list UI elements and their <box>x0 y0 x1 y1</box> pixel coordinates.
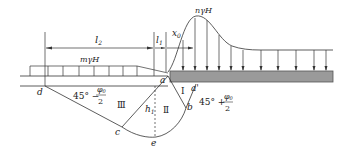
point-b: b <box>187 102 193 112</box>
footing <box>170 71 333 82</box>
arrowhead-icon <box>188 47 193 50</box>
zone-I: Ⅰ <box>181 86 185 96</box>
zone-II: Ⅱ <box>163 105 169 115</box>
point-a-prime: a' <box>191 83 199 93</box>
zone-III: Ⅲ <box>117 100 126 110</box>
point-d: d <box>37 87 43 97</box>
load-arrows <box>183 18 326 70</box>
label-peak-load: nγH <box>195 6 213 15</box>
arrowhead-icon <box>161 47 165 49</box>
label-l1: l1 <box>156 35 163 46</box>
arrowhead-icon <box>46 47 52 50</box>
angle-active-den: 2 <box>225 104 230 113</box>
load-arrowheads <box>182 66 328 71</box>
point-e: e <box>151 138 156 148</box>
label-l2: l2 <box>95 34 102 46</box>
angle-active-num: φ0 <box>224 92 234 101</box>
label-x0: x0 <box>172 28 181 39</box>
bearing-capacity-diagram: l2 l1 x0 mγH nγH a a' b c d e h1 Ⅰ Ⅱ Ⅲ 4… <box>0 0 348 154</box>
label-h1: h1 <box>145 104 155 115</box>
arrowhead-icon <box>147 47 153 50</box>
angle-active-prefix: 45° + <box>199 97 225 107</box>
label-surcharge-left: mγH <box>80 55 100 64</box>
angle-passive-prefix: 45° − <box>73 91 99 101</box>
point-c: c <box>115 127 120 137</box>
left-surcharge-load <box>30 66 168 76</box>
contact-pressure-curve <box>168 16 333 72</box>
point-a: a <box>160 75 165 85</box>
angle-passive-den: 2 <box>98 97 103 106</box>
